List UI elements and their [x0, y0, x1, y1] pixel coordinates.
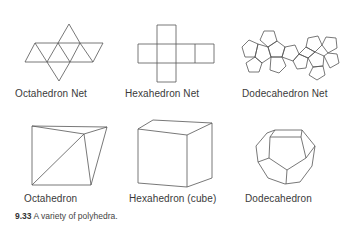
hexahedron-label: Hexahedron (cube) [129, 193, 216, 204]
octahedron-label: Octahedron [24, 193, 77, 204]
dodecahedron-drawing [256, 130, 315, 184]
dodecahedron-label: Dodecahedron [245, 193, 312, 204]
octahedron-net-label: Octahedron Net [15, 88, 87, 99]
figure-caption: 9.33 A variety of polyhedra. [15, 211, 118, 221]
figure-number: 9.33 [15, 211, 32, 221]
octahedron-drawing [32, 126, 107, 185]
hexahedron-net-label: Hexahedron Net [125, 88, 199, 99]
octahedron-net-drawing [25, 24, 103, 81]
hexahedron-net-drawing [138, 25, 214, 82]
caption-text: A variety of polyhedra. [33, 211, 117, 221]
hexahedron-drawing [138, 120, 212, 187]
dodecahedron-net-drawing [242, 31, 339, 80]
dodecahedron-net-label: Dodecahedron Net [242, 88, 328, 99]
